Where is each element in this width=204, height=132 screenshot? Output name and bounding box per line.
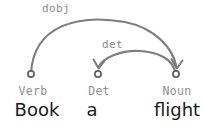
pos-tag-verb: Verb bbox=[19, 84, 48, 98]
node-circle-verb bbox=[28, 71, 34, 77]
pos-tag-det: Det bbox=[88, 84, 110, 98]
dependency-parse-diagram: dobj det Verb Det Noun Book a flight bbox=[0, 0, 204, 132]
node-circle-noun bbox=[173, 71, 179, 77]
pos-tag-noun: Noun bbox=[163, 84, 192, 98]
word-flight: flight bbox=[154, 99, 200, 120]
relation-label-det: det bbox=[102, 38, 123, 51]
word-book: Book bbox=[15, 99, 60, 120]
relation-label-dobj: dobj bbox=[42, 2, 70, 15]
det-arc bbox=[99, 51, 176, 71]
node-circle-det bbox=[95, 71, 101, 77]
word-a: a bbox=[86, 99, 97, 120]
